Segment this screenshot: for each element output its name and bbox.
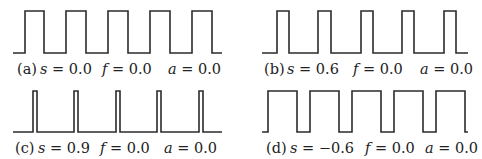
panel-label: (d) [266,139,287,157]
param-s: s = −0.6 [290,139,354,157]
param-a: a = 0.0 [168,60,221,78]
waveform-d [262,91,468,132]
param-f: f = 0.0 [365,139,415,157]
panel-label: (c) [15,139,34,157]
panel-label: (a) [17,60,37,78]
waveform-canvas [0,0,482,159]
panel-label: (b) [264,60,285,78]
param-s: s = 0.6 [287,60,339,78]
param-s: s = 0.9 [38,139,90,157]
param-f: f = 0.0 [102,60,152,78]
pulse-waveform-figure: (a) s = 0.0 f = 0.0 a = 0.0 (b) s = 0.6 … [0,0,482,159]
waveform-a [13,11,222,53]
param-f: f = 0.0 [353,60,403,78]
waveform-c [13,91,222,132]
param-f: f = 0.0 [100,139,150,157]
waveform-b [262,11,468,53]
param-a: a = 0.0 [164,139,217,157]
param-s: s = 0.0 [40,60,92,78]
param-a: a = 0.0 [420,60,473,78]
param-a: a = 0.0 [425,139,478,157]
